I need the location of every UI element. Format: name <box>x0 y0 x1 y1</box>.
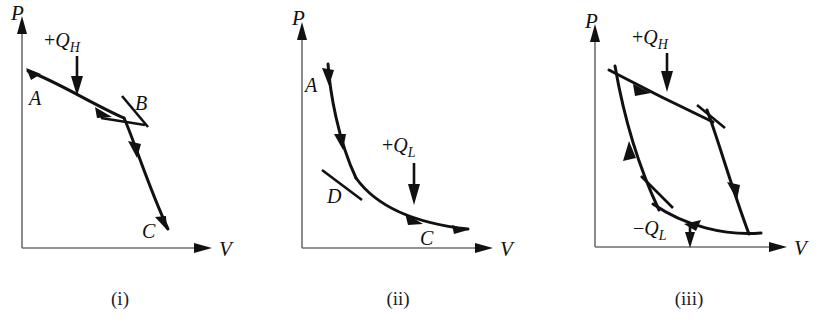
panel-caption-iii: (iii) <box>675 288 704 310</box>
heat-label-qh: +QH <box>44 29 81 55</box>
panel-i: P V A B C +QH (i) <box>0 0 272 330</box>
curve-right-adiabat <box>707 110 749 234</box>
panel-caption-ii: (ii) <box>386 288 409 310</box>
direction-arrow-ad-start <box>322 68 334 86</box>
point-label-c: C <box>420 227 434 249</box>
v-axis-label: V <box>219 237 234 261</box>
heat-label-qh: +QH <box>632 26 669 52</box>
p-axis-label: P <box>291 6 305 30</box>
direction-arrow-right-adiabat <box>727 182 740 200</box>
v-axis-label: V <box>794 236 809 260</box>
point-label-b: B <box>135 92 147 114</box>
direction-arrow-bc-end <box>155 216 167 230</box>
heat-annotation-ql-ii: +QL <box>382 134 420 205</box>
p-axis-label: P <box>584 9 598 33</box>
panel-ii-canvas: P V A D C +QL (ii) <box>272 0 549 330</box>
panel-iii-canvas: P V +QH −QL <box>549 0 827 330</box>
axes-group-iii <box>590 24 787 252</box>
panel-ii: P V A D C +QL (ii) <box>272 0 549 330</box>
direction-arrow-dc-end <box>452 225 468 234</box>
heat-annotation-qh-iii: +QH <box>632 26 673 92</box>
heat-arrow-head-ql <box>685 232 695 248</box>
v-axis-arrowhead <box>769 242 787 252</box>
point-label-a: A <box>27 87 42 109</box>
v-axis-arrowhead <box>475 243 493 253</box>
heat-label-ql: −QL <box>633 217 667 243</box>
panel-iii: P V +QH −QL <box>549 0 827 330</box>
point-label-c: C <box>142 220 156 242</box>
point-label-d: D <box>326 185 342 207</box>
p-axis-label: P <box>10 1 24 25</box>
direction-arrow-ab-start <box>26 68 41 80</box>
heat-label-ql: +QL <box>382 134 416 160</box>
heat-arrow-head-qh <box>661 71 673 92</box>
curve-b-to-c <box>124 118 168 229</box>
curve-a-to-d <box>328 64 356 178</box>
axes-group-i <box>17 16 212 253</box>
figure-root: P V A B C +QH (i) <box>0 0 827 330</box>
v-axis-label: V <box>500 237 515 261</box>
panel-caption-i: (i) <box>111 288 129 310</box>
v-axis-arrowhead <box>194 243 212 253</box>
panel-i-canvas: P V A B C +QH (i) <box>0 0 272 330</box>
point-label-a: A <box>303 74 318 96</box>
heat-arrow-head-ql <box>408 184 420 205</box>
